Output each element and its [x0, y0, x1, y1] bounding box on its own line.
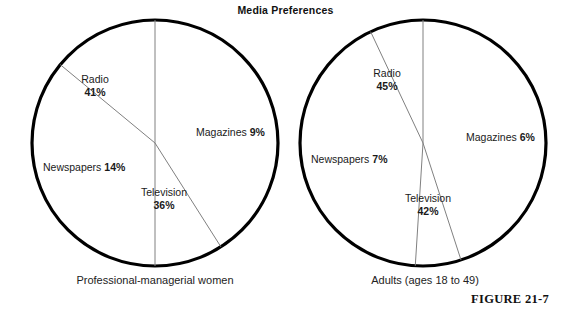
- slice-pct-left-radio: 41%: [84, 86, 105, 98]
- pie-slice-label-right-radio: Radio 45%: [352, 67, 422, 93]
- pie-caption-right: Adults (ages 18 to 49): [305, 274, 545, 286]
- figure-number-label: FIGURE 21-7: [471, 292, 549, 307]
- figure-page: Media Preferences Radio 41% Magazines 9%…: [0, 0, 571, 313]
- slice-name-left-magazines: Magazines: [196, 126, 247, 138]
- slice-pct-left-newspapers: 14%: [104, 161, 125, 173]
- pie-slice-label-right-magazines: Magazines 6%: [466, 131, 535, 144]
- pie-slice-label-left-radio: Radio 41%: [60, 73, 130, 99]
- pie-slice-label-left-magazines: Magazines 9%: [196, 126, 265, 139]
- slice-name-left-television: Television: [141, 186, 187, 198]
- slice-name-left-radio: Radio: [81, 73, 108, 85]
- slice-name-right-radio: Radio: [373, 67, 400, 79]
- slice-name-right-magazines: Magazines: [466, 131, 517, 143]
- slice-name-left-newspapers: Newspapers: [43, 161, 101, 173]
- pie-slice-label-right-newspapers: Newspapers 7%: [311, 153, 387, 166]
- pie-chart-left: [32, 20, 278, 266]
- slice-name-right-newspapers: Newspapers: [311, 153, 369, 165]
- pie-charts-svg: [0, 0, 571, 313]
- pie-slice-label-left-newspapers: Newspapers 14%: [43, 161, 125, 174]
- slice-name-right-television: Television: [405, 192, 451, 204]
- slice-pct-right-newspapers: 7%: [372, 153, 387, 165]
- slice-pct-right-radio: 45%: [376, 80, 397, 92]
- slice-pct-right-television: 42%: [417, 205, 438, 217]
- pie-caption-left: Professional-managerial women: [35, 274, 275, 286]
- pie-slice-label-right-television: Television 42%: [390, 192, 466, 218]
- slice-pct-right-magazines: 6%: [520, 131, 535, 143]
- page-title: Media Preferences: [0, 4, 571, 16]
- pie-slice-label-left-television: Television 36%: [126, 186, 202, 212]
- slice-pct-left-television: 36%: [153, 199, 174, 211]
- slice-pct-left-magazines: 9%: [250, 126, 265, 138]
